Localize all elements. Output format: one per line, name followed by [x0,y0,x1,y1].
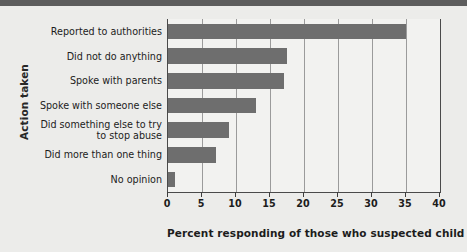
bar [168,98,256,114]
category-label: Spoke with parents [34,75,162,86]
bar [168,48,287,64]
x-tick-label: 30 [356,198,386,209]
x-tick-mark [303,192,304,197]
category-label-line: Did not do anything [34,51,162,62]
category-label: Did not do anything [34,51,162,62]
category-label: Did something else to tryto stop abuse [34,119,162,141]
x-tick-mark [201,192,202,197]
gridline [338,19,339,192]
gridline [372,19,373,192]
bar [168,172,175,188]
category-label-line: Did something else to try [34,119,162,130]
x-tick-mark [439,192,440,197]
bar [168,24,406,40]
x-axis-title: Percent responding of those who suspecte… [167,227,441,239]
category-label-line: Spoke with someone else [34,100,162,111]
bar [168,122,229,138]
x-tick-label: 20 [288,198,318,209]
x-tick-label: 25 [322,198,352,209]
category-label: Did more than one thing [34,149,162,160]
x-tick-mark [371,192,372,197]
x-axis-ticks: 0510152025303540 [167,192,441,216]
x-tick-label: 5 [186,198,216,209]
gridline [406,19,407,192]
x-tick-label: 10 [220,198,250,209]
category-label-line: Reported to authorities [34,26,162,37]
x-tick-label: 15 [254,198,284,209]
x-tick-label: 0 [152,198,182,209]
bar [168,73,284,89]
plot-area [167,19,441,193]
x-tick-mark [269,192,270,197]
category-axis-labels: Reported to authoritiesDid not do anythi… [34,19,162,192]
x-tick-mark [405,192,406,197]
category-label: Reported to authorities [34,26,162,37]
x-tick-mark [235,192,236,197]
category-label-line: No opinion [34,174,162,185]
x-tick-mark [337,192,338,197]
category-label-line: Did more than one thing [34,149,162,160]
category-label-line: Spoke with parents [34,75,162,86]
gridline [270,19,271,192]
category-label: No opinion [34,174,162,185]
bar-chart: Action taken Reported to authoritiesDid … [0,0,467,252]
bar [168,147,216,163]
x-tick-label: 35 [390,198,420,209]
category-label: Spoke with someone else [34,100,162,111]
gridline [304,19,305,192]
x-tick-mark [167,192,168,197]
x-tick-label: 40 [424,198,454,209]
category-label-line: to stop abuse [34,130,162,141]
y-axis-title: Action taken [18,42,30,162]
